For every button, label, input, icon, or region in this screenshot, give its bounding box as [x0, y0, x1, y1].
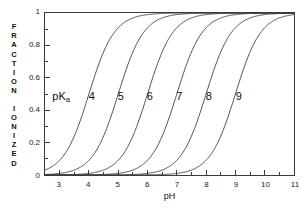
curve-pka-6	[45, 13, 294, 175]
y-tick-label: 0.2	[0, 139, 46, 147]
y-tick-label: 0.8	[0, 41, 46, 49]
curve-label-pka-4: 4	[89, 90, 95, 101]
curve-pka-9	[45, 15, 294, 175]
pka-subscript: a	[66, 94, 70, 103]
curve-label-pka-6: 6	[147, 90, 153, 101]
curve-label-pka-7: 7	[176, 90, 182, 101]
x-tick-label: 8	[204, 181, 208, 189]
plot-area	[44, 12, 295, 176]
x-axis-title: pH	[44, 192, 295, 201]
x-tick-label: 3	[57, 181, 61, 189]
y-axis-title-letter: C	[8, 50, 20, 59]
y-axis-title-letter: F	[8, 22, 20, 31]
x-tick-label: 11	[291, 181, 299, 189]
x-tick-label: 5	[116, 181, 120, 189]
pka-label: pKa	[52, 90, 70, 101]
curve-label-pka-5: 5	[118, 90, 124, 101]
curve-pka-4	[45, 13, 294, 170]
y-axis-title-letter: T	[8, 59, 20, 68]
y-tick-label: 0.6	[0, 74, 46, 82]
y-axis-title-letter: E	[8, 149, 20, 158]
x-tick-label: 10	[261, 181, 270, 189]
x-tick-label: 6	[145, 181, 149, 189]
y-axis-title-letter: N	[8, 122, 20, 131]
pka-base-text: pK	[52, 89, 65, 101]
y-axis-title-letter: R	[8, 31, 20, 40]
y-axis-title-gap	[8, 96, 20, 104]
y-tick-label: 1	[0, 8, 46, 16]
curve-label-pka-9: 9	[236, 90, 242, 101]
y-axis-title-letter: D	[8, 159, 20, 168]
y-tick-label: 0	[0, 172, 46, 180]
y-axis-title-letter: N	[8, 86, 20, 95]
x-tick-label: 9	[234, 181, 238, 189]
x-tick-label: 4	[86, 181, 90, 189]
ionization-curve-figure: F R A C T I O N I O N I Z E D 00.20.40.6…	[0, 0, 306, 209]
curve-paths	[45, 13, 294, 175]
ionization-curves	[45, 13, 294, 175]
x-tick-label: 7	[175, 181, 179, 189]
y-tick-label: 0.4	[0, 106, 46, 114]
curve-label-pka-8: 8	[206, 90, 212, 101]
